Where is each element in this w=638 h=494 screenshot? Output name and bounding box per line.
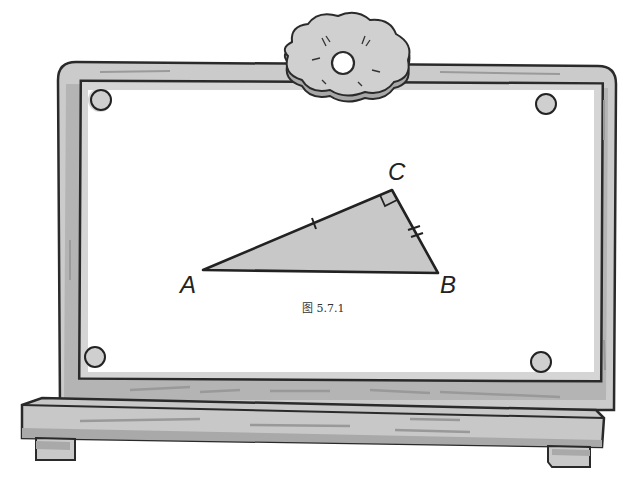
rivet-icon (91, 90, 111, 110)
blackboard-illustration: A B C 图 5.7.1 (0, 0, 638, 494)
figure-caption: 图 5.7.1 (302, 302, 345, 315)
vertex-label-a: A (178, 271, 196, 298)
rivet-icon (531, 352, 551, 372)
vertex-label-b: B (440, 271, 456, 298)
board-base (22, 398, 604, 467)
flower-ornament-icon (285, 13, 410, 102)
vertex-label-c: C (388, 158, 406, 185)
rivet-icon (536, 94, 556, 114)
rivet-icon (85, 347, 105, 367)
